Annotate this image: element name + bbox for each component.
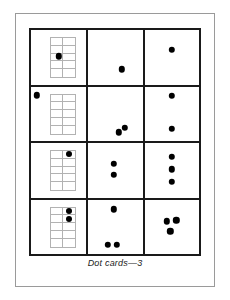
dot-marker — [169, 126, 175, 132]
dot-marker — [164, 218, 170, 224]
dot-card-middle[interactable] — [88, 87, 145, 142]
dot-marker — [66, 208, 72, 214]
ten-frame-cell — [63, 208, 75, 216]
ten-frame-cell — [51, 231, 63, 239]
ten-frame-cell — [51, 159, 63, 167]
card-row — [31, 30, 199, 87]
ten-frame-cell — [51, 174, 63, 182]
ten-frame-cell — [63, 102, 75, 110]
card-row — [31, 200, 199, 255]
dot-marker — [110, 161, 116, 167]
dot-card-tenframe[interactable] — [31, 87, 88, 142]
card-row — [31, 143, 199, 200]
ten-frame-cell — [51, 215, 63, 223]
ten-frame-cell — [63, 95, 75, 103]
card-row — [31, 87, 199, 144]
dot-card-tenframe[interactable] — [31, 30, 88, 85]
ten-frame-cell — [51, 38, 63, 46]
dot-marker — [119, 66, 125, 72]
dot-card-right[interactable] — [145, 200, 200, 255]
ten-frame-cell — [51, 167, 63, 175]
dot-card-right[interactable] — [145, 30, 200, 85]
ten-frame-cell — [63, 231, 75, 239]
ten-frame-cell — [63, 151, 75, 159]
dot-card-middle[interactable] — [88, 30, 145, 85]
dot-marker — [167, 228, 173, 234]
dot-marker — [115, 129, 121, 135]
ten-frame-grid — [50, 207, 76, 248]
ten-frame-cell — [63, 215, 75, 223]
ten-frame-cell — [51, 95, 63, 103]
dot-marker — [114, 242, 120, 248]
ten-frame-cell — [63, 174, 75, 182]
ten-frame-cell — [63, 126, 75, 134]
dot-card-middle[interactable] — [88, 143, 145, 198]
ten-frame-cell — [63, 118, 75, 126]
dot-marker — [66, 151, 72, 157]
dot-marker — [66, 216, 72, 222]
dot-marker — [122, 125, 128, 131]
ten-frame-cell — [51, 239, 63, 247]
ten-frame-grid — [50, 94, 76, 135]
ten-frame-cell — [51, 208, 63, 216]
dot-marker — [33, 92, 39, 98]
ten-frame-cell — [63, 167, 75, 175]
ten-frame-grid — [50, 150, 76, 191]
worksheet-page: Dot cards—3 — [0, 0, 230, 300]
dot-marker — [169, 178, 175, 184]
ten-frame-cell — [63, 110, 75, 118]
ten-frame-cell — [63, 182, 75, 190]
ten-frame-cell — [51, 61, 63, 69]
ten-frame-cell — [51, 118, 63, 126]
page-caption: Dot cards—3 — [29, 258, 201, 268]
ten-frame-cell — [63, 38, 75, 46]
ten-frame-cell — [63, 239, 75, 247]
ten-frame-cell — [51, 69, 63, 77]
ten-frame-cell — [51, 151, 63, 159]
dot-marker — [169, 46, 175, 52]
dot-card-tenframe[interactable] — [31, 200, 88, 255]
dot-card-right[interactable] — [145, 143, 200, 198]
ten-frame-cell — [63, 54, 75, 62]
ten-frame-cell — [63, 223, 75, 231]
dot-marker — [104, 242, 110, 248]
ten-frame-cell — [51, 126, 63, 134]
dot-marker — [169, 153, 175, 159]
ten-frame-cell — [63, 46, 75, 54]
ten-frame-cell — [63, 69, 75, 77]
dot-marker — [169, 166, 175, 172]
dot-marker — [110, 206, 116, 212]
dot-marker — [110, 171, 116, 177]
dot-card-middle[interactable] — [88, 200, 145, 255]
dot-marker — [173, 217, 179, 223]
ten-frame-cell — [63, 159, 75, 167]
ten-frame-cell — [63, 61, 75, 69]
dot-card-right[interactable] — [145, 87, 200, 142]
ten-frame-cell — [51, 223, 63, 231]
dot-marker — [169, 93, 175, 99]
ten-frame-grid — [50, 37, 76, 78]
ten-frame-cell — [51, 102, 63, 110]
ten-frame-cell — [51, 110, 63, 118]
ten-frame-cell — [51, 182, 63, 190]
dot-card-tenframe[interactable] — [31, 143, 88, 198]
dot-cards-table — [29, 28, 201, 256]
